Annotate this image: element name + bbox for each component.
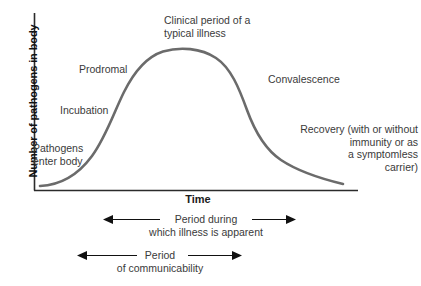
x-axis-title: Time [161,193,235,206]
bracket-label-communicability-line2: of communicability [80,262,240,275]
label-pathogens-enter-body: Pathogens enter body [33,142,83,167]
label-prodromal: Prodromal [79,63,127,76]
bracket-label-communicability-line1: Period [95,249,225,262]
infection-course-figure: Number of pathogens in body Pathogens en… [0,0,421,286]
y-axis-title: Number of pathogens in body [27,6,39,196]
label-clinical-period: Clinical period of a typical illness [164,14,250,39]
bracket-label-period-illness-line2: which illness is apparent [120,226,292,239]
label-recovery: Recovery (with or without immunity or as… [284,123,418,173]
label-convalescence: Convalescence [268,73,340,86]
label-incubation: Incubation [60,104,108,117]
bracket-label-period-illness-line1: Period during [120,213,292,226]
